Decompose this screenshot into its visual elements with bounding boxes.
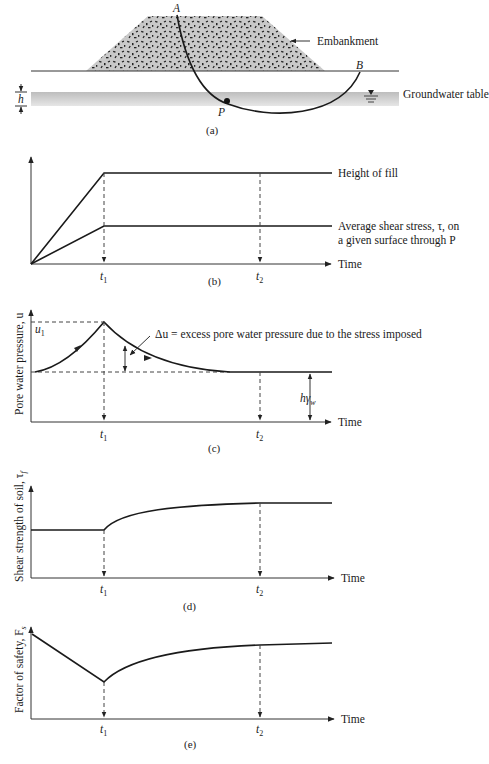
t1-label: t1 — [100, 583, 107, 598]
t2-label: t2 — [256, 270, 263, 285]
x-axis-label: Time — [341, 713, 365, 725]
t2-label: t2 — [256, 723, 263, 738]
panel-a-caption: (a) — [206, 124, 219, 137]
shear-stress-line — [31, 226, 332, 264]
panel-c-caption: (c) — [208, 442, 221, 455]
u1-label: u1 — [35, 323, 45, 338]
height-of-fill-label: Height of fill — [338, 167, 398, 180]
panel-d-chart: Shear strength of soil, τf Time t1 t2 (d… — [13, 470, 365, 613]
point-a-label: A — [172, 2, 181, 14]
y-axis-label: Pore water pressure, u — [13, 313, 26, 415]
delta-u-annotation: Δu = excess pore water pressure due to t… — [155, 328, 422, 341]
t2-label: t2 — [256, 583, 263, 598]
x-axis-label: Time — [338, 416, 362, 428]
shear-stress-label-line2: a given surface through P — [338, 234, 456, 247]
shear-strength-curve — [31, 503, 332, 530]
point-p-label: P — [217, 106, 225, 118]
panel-c-chart: Pore water pressure, u u1 Δu = excess po… — [13, 310, 422, 455]
factor-of-safety-curve — [32, 634, 332, 682]
panel-a-embankment-diagram: A B P Embankment Groundwater table h (a) — [15, 2, 489, 137]
figure-canvas: A B P Embankment Groundwater table h (a)… — [0, 0, 489, 764]
groundwater-table-label: Groundwater table — [403, 88, 489, 100]
x-axis-label: Time — [338, 258, 362, 270]
depth-h-label: h — [18, 93, 24, 105]
depth-h-dimension: h — [15, 84, 27, 114]
panel-e-chart: Factor of safety, Fs Time t1 t2 (e) — [13, 626, 365, 751]
panel-b-caption: (b) — [208, 275, 221, 288]
height-of-fill-line — [31, 173, 332, 264]
x-axis-label: Time — [341, 572, 365, 584]
embankment-fill — [86, 16, 325, 71]
y-axis-label: Factor of safety, Fs — [13, 626, 28, 713]
t1-label: t1 — [100, 723, 107, 738]
point-p-marker — [224, 98, 230, 104]
t1-label: t1 — [100, 270, 107, 285]
panel-e-caption: (e) — [184, 738, 197, 751]
y-axis-label: Shear strength of soil, τf — [13, 470, 28, 582]
panel-d-caption: (d) — [183, 600, 196, 613]
shear-stress-label-line1: Average shear stress, τ, on — [338, 220, 460, 233]
panel-b-chart: Height of fill Average shear stress, τ, … — [31, 157, 460, 288]
hydrostatic-label: hγw — [300, 392, 316, 407]
t2-label: t2 — [256, 428, 263, 443]
fall-direction-arrow — [144, 355, 152, 361]
point-b-label: B — [356, 59, 363, 71]
embankment-label: Embankment — [317, 35, 379, 47]
t1-label: t1 — [100, 428, 107, 443]
